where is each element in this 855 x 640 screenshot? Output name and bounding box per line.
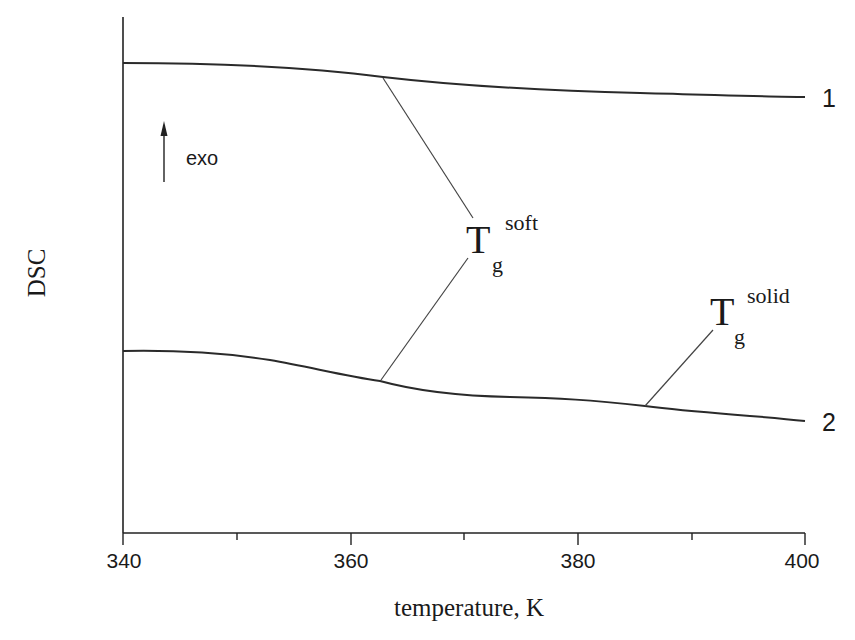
x-axis-title: temperature, K bbox=[394, 594, 544, 621]
tg-soft-main: T bbox=[466, 217, 490, 262]
x-tick-label: 380 bbox=[560, 549, 595, 572]
tg-solid-sub: g bbox=[734, 324, 745, 349]
x-ticks bbox=[123, 533, 805, 545]
tg-solid-main: T bbox=[710, 289, 734, 334]
x-tick-label: 340 bbox=[106, 549, 141, 572]
tg-solid-annotation: T g solid bbox=[710, 283, 790, 349]
curve-1-label: 1 bbox=[822, 84, 836, 112]
x-tick-label: 400 bbox=[784, 549, 819, 572]
tg-soft-leaders bbox=[381, 78, 473, 380]
tg-soft-sub: g bbox=[492, 252, 503, 277]
curve-2 bbox=[123, 351, 805, 421]
exo-arrow-icon bbox=[161, 121, 168, 182]
y-axis-title: DSC bbox=[23, 249, 50, 298]
dsc-chart: 340 360 380 400 temperature, K DSC 1 2 e… bbox=[0, 0, 855, 640]
tg-solid-sup: solid bbox=[747, 283, 790, 308]
x-tick-label: 360 bbox=[333, 549, 368, 572]
tg-solid-leader bbox=[645, 330, 713, 406]
curve-1 bbox=[123, 63, 805, 97]
curve-2-label: 2 bbox=[822, 408, 836, 436]
tg-soft-annotation: T g soft bbox=[466, 210, 538, 277]
exo-label: exo bbox=[186, 147, 218, 169]
tg-soft-sup: soft bbox=[505, 210, 538, 235]
